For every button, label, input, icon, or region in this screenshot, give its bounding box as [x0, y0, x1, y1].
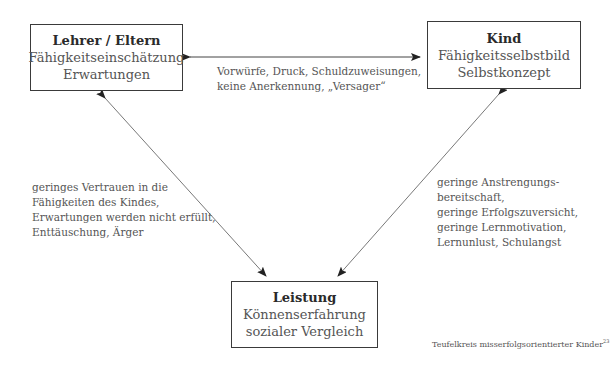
edge-label-line: Erwartungen werden nicht erfüllt, [32, 210, 215, 225]
edge-label-line: geringe Lernmotivation, [437, 220, 578, 235]
node-line: Fähigkeitsselbstbild [438, 47, 570, 64]
node-line: Selbstkonzept [457, 64, 550, 81]
edge-label-line: bereitschaft, [437, 190, 578, 205]
node-line: Fähigkeitseinschätzung [29, 49, 185, 66]
node-line: sozialer Vergleich [246, 323, 364, 340]
edge-label-line: Lernunlust, Schulangst [437, 235, 578, 250]
node-line: Erwartungen [63, 66, 150, 83]
edge-label-line: Fähigkeiten des Kindes, [32, 195, 215, 210]
edge-label-line: geringe Erfolgszuversicht, [437, 205, 578, 220]
edge-label-teachers-child: Vorwürfe, Druck, Schuldzuweisungen, kein… [217, 64, 421, 94]
edge-label-line: geringes Vertrauen in die [32, 180, 215, 195]
edge-label-teachers-performance: geringes Vertrauen in die Fähigkeiten de… [32, 180, 215, 240]
figure-caption: Teufelkreis misserfolgsorientierter Kind… [432, 338, 609, 349]
node-performance: Leistung Könnenserfahrung sozialer Vergl… [231, 281, 378, 348]
edge-label-line: geringe Anstrengungs- [437, 175, 578, 190]
node-title: Lehrer / Eltern [52, 32, 160, 49]
edge-label-child-performance: geringe Anstrengungs- bereitschaft, geri… [437, 175, 578, 250]
edge-label-line: keine Anerkennung, „Versager“ [217, 79, 421, 94]
node-teachers-parents: Lehrer / Eltern Fähigkeitseinschätzung E… [30, 24, 183, 91]
footnote-marker: 23 [603, 338, 609, 344]
caption-text: Teufelkreis misserfolgsorientierter Kind… [432, 340, 603, 349]
node-title: Leistung [273, 289, 337, 306]
node-line: Könnenserfahrung [243, 306, 366, 323]
node-child: Kind Fähigkeitsselbstbild Selbstkonzept [427, 21, 581, 89]
edge-label-line: Enttäuschung, Ärger [32, 225, 215, 240]
node-title: Kind [487, 30, 522, 47]
edge-label-line: Vorwürfe, Druck, Schuldzuweisungen, [217, 64, 421, 79]
